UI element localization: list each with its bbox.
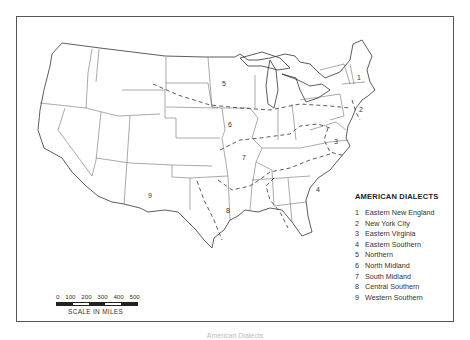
legend-item: 4Eastern Southern [355, 240, 455, 251]
region-label-1: 1 [357, 74, 361, 81]
region-label-7: 7 [242, 154, 246, 161]
region-label-3: 3 [334, 138, 338, 145]
caption: American Dialects [0, 332, 470, 339]
legend-title: AMERICAN DIALECTS [355, 192, 455, 201]
legend-item: 5Northern [355, 250, 455, 261]
legend-item: 7South Midland [355, 272, 455, 283]
scale-bar: 0 100 200 300 400 500 SCALE IN MILES [56, 293, 144, 315]
lake-huron-erie [282, 74, 330, 102]
boundary-north-midland [220, 124, 330, 150]
region-labels: 1 2 3 4 5 6 7 8 9 [148, 74, 363, 214]
scale-bar-graphic [56, 302, 138, 306]
legend-item: 6North Midland [355, 261, 455, 272]
region-label-5: 5 [222, 80, 226, 87]
region-label-6: 6 [228, 121, 232, 128]
legend-item: 9Western Southern [355, 293, 455, 304]
legend: AMERICAN DIALECTS 1Eastern New England 2… [355, 192, 455, 303]
legend-item: 8Central Southern [355, 282, 455, 293]
scale-ticks: 0 100 200 300 400 500 [56, 293, 144, 300]
region-label-4: 4 [316, 186, 320, 193]
scale-label: SCALE IN MILES [68, 308, 144, 315]
legend-item: 3Eastern Virginia [355, 229, 455, 240]
region-label-2: 2 [359, 106, 363, 113]
legend-item: 2New York City [355, 219, 455, 230]
boundary-eastern-southern [266, 178, 288, 228]
legend-item: 1Eastern New England [355, 208, 455, 219]
region-label-9: 9 [148, 192, 152, 199]
region-label-8: 8 [226, 207, 230, 214]
boundary-central-western [197, 181, 222, 240]
